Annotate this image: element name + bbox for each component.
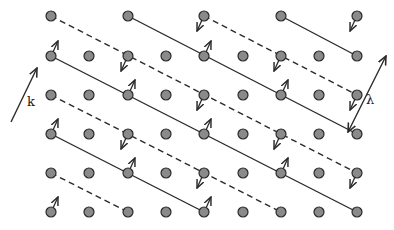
wave-vector-label: k	[27, 94, 35, 109]
lattice-atom	[123, 90, 133, 100]
displacement-arrows	[53, 20, 355, 208]
displacement-arrow-icon	[130, 158, 135, 169]
displacement-arrow-icon	[350, 177, 355, 188]
lattice-atom	[199, 207, 209, 217]
lattice-atom	[84, 90, 94, 100]
displacement-arrow-icon	[53, 41, 58, 52]
lattice-atom	[238, 51, 248, 61]
lattice-atom	[276, 51, 286, 61]
lattice-atom	[46, 11, 56, 21]
lattice-atom	[161, 51, 171, 61]
lattice-atom	[352, 51, 362, 61]
lattice-atom	[199, 168, 209, 178]
displacement-arrow-icon	[197, 99, 202, 110]
displacement-arrow-icon	[350, 20, 355, 31]
lattice-atom	[46, 51, 56, 61]
lattice-atom	[84, 207, 94, 217]
solid-wavefront-line	[128, 16, 357, 134]
lattice-atom	[84, 168, 94, 178]
lattice-atom	[352, 168, 362, 178]
displacement-arrow-icon	[53, 197, 58, 208]
lattice-atom	[314, 51, 324, 61]
lattice-atom	[276, 11, 286, 21]
displacement-arrow-icon	[197, 20, 202, 31]
displacement-arrow-icon	[274, 138, 279, 149]
lattice-atom	[238, 129, 248, 139]
lattice-atom	[46, 90, 56, 100]
lattice-atom	[46, 129, 56, 139]
lattice-atom	[161, 129, 171, 139]
wavefront-lines	[51, 16, 357, 212]
displacement-arrow-icon	[53, 119, 58, 130]
lattice-atom	[123, 207, 133, 217]
lattice-atom	[352, 90, 362, 100]
lattice-atom	[314, 207, 324, 217]
dashed-wavefront-line	[51, 173, 128, 212]
lattice-atom	[123, 51, 133, 61]
lattice-atom	[352, 207, 362, 217]
lattice-atom	[199, 11, 209, 21]
lattice-atom	[123, 168, 133, 178]
lattice-atom	[161, 207, 171, 217]
lattice-atom	[352, 11, 362, 21]
displacement-arrow-icon	[206, 41, 211, 52]
lattice-atom	[46, 207, 56, 217]
lattice-atom	[199, 129, 209, 139]
lattice-atom	[352, 129, 362, 139]
lattice-atom	[238, 90, 248, 100]
displacement-arrow-icon	[130, 80, 135, 91]
lattice-atom	[84, 51, 94, 61]
lattice-atom	[46, 168, 56, 178]
lattice-atom	[123, 11, 133, 21]
lattice-atom	[314, 129, 324, 139]
lattice-atom	[276, 168, 286, 178]
lattice-atom	[276, 207, 286, 217]
lattice-atom	[238, 168, 248, 178]
displacement-arrow-icon	[274, 60, 279, 71]
lattice-atoms	[46, 11, 362, 217]
lattice-atom	[84, 129, 94, 139]
lattice-atom	[199, 90, 209, 100]
displacement-arrow-icon	[283, 80, 288, 91]
displacement-arrow-icon	[283, 158, 288, 169]
solid-wavefront-line	[281, 16, 357, 56]
lattice-wave-diagram: k λ	[0, 0, 394, 230]
lattice-atom	[123, 129, 133, 139]
lattice-atom	[314, 168, 324, 178]
displacement-arrow-icon	[206, 119, 211, 130]
displacement-arrow-icon	[206, 197, 211, 208]
lattice-atom	[276, 129, 286, 139]
dashed-wavefront-line	[51, 95, 281, 212]
displacement-arrow-icon	[197, 177, 202, 188]
displacement-arrow-icon	[121, 60, 126, 71]
lattice-atom	[238, 207, 248, 217]
displacement-arrow-icon	[350, 99, 355, 110]
lattice-atom	[199, 51, 209, 61]
lattice-atom	[161, 168, 171, 178]
lattice-atom	[276, 90, 286, 100]
wavelength-label: λ	[366, 92, 374, 107]
displacement-arrow-icon	[121, 138, 126, 149]
lattice-atom	[161, 90, 171, 100]
lattice-atom	[314, 90, 324, 100]
